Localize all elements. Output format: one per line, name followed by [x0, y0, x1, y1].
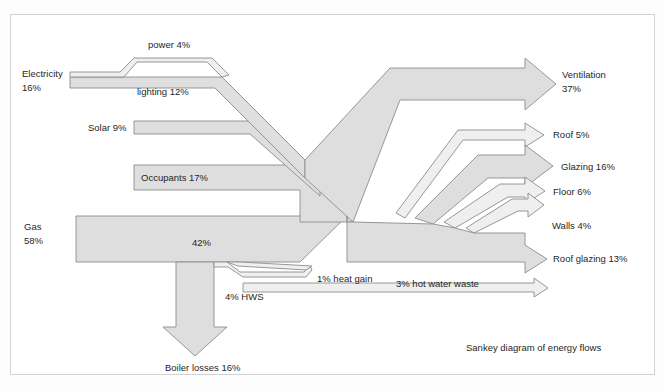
label-ventilation-name: Ventilation — [562, 69, 606, 80]
label-electricity-name: Electricity — [22, 68, 63, 79]
label-hws: 4% HWS — [225, 291, 264, 302]
diagram-caption: Sankey diagram of energy flows — [466, 342, 601, 353]
label-roof-glazing: Roof glazing 13% — [553, 253, 628, 264]
label-power: power 4% — [148, 39, 191, 50]
label-electricity-pct: 16% — [22, 82, 42, 93]
label-occupants: Occupants 17% — [141, 172, 209, 183]
label-walls: Walls 4% — [552, 220, 592, 231]
label-boiler-losses: Boiler losses 16% — [165, 362, 241, 373]
label-glazing: Glazing 16% — [561, 161, 615, 172]
sankey-diagram-canvas: Electricity 16% Solar 9% Occupants 17% G… — [0, 0, 664, 391]
label-lighting: lighting 12% — [137, 86, 189, 97]
label-floor: Floor 6% — [553, 186, 592, 197]
label-gas-name: Gas — [24, 221, 42, 232]
label-gas-pct: 58% — [24, 235, 44, 246]
sankey-labels-svg: Electricity 16% Solar 9% Occupants 17% G… — [0, 0, 664, 391]
label-hot-water-waste: 3% hot water waste — [396, 278, 479, 289]
label-heat-gain: 1% heat gain — [317, 273, 372, 284]
label-roof: Roof 5% — [553, 129, 590, 140]
label-solar: Solar 9% — [88, 122, 127, 133]
label-gas-to-space-pct: 42% — [192, 237, 212, 248]
label-ventilation-pct: 37% — [562, 83, 582, 94]
